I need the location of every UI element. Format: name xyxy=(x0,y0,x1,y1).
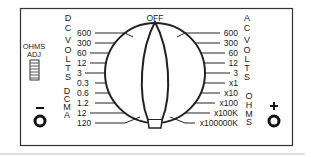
left-range-label: 120 xyxy=(77,118,91,128)
ac-volts-title: A C V O L T S xyxy=(243,13,250,82)
svg-text:A: A xyxy=(244,13,250,23)
svg-text:V: V xyxy=(65,35,71,45)
left-range-label: 300 xyxy=(77,38,91,48)
svg-text:S: S xyxy=(65,72,71,82)
right-range-label: x100K xyxy=(214,108,238,118)
right-range-label: 600 xyxy=(224,28,238,38)
left-range-label: 60 xyxy=(77,48,87,58)
multimeter-dial-diagram: OFF D C V O L T S D C M A A C V O L T S … xyxy=(0,0,311,157)
right-range-label: x10 xyxy=(224,88,238,98)
svg-text:C: C xyxy=(244,23,251,33)
left-range-label: 3 xyxy=(77,68,82,78)
ohms-adj-knob[interactable] xyxy=(30,60,39,80)
left-range-label: 0.6 xyxy=(77,88,89,98)
ohms-title: O H M S xyxy=(245,91,253,127)
right-range-label: 3 xyxy=(233,68,238,78)
pointer-tip xyxy=(148,120,162,128)
right-range-label: 60 xyxy=(229,48,239,58)
right-range-label: x1 xyxy=(229,78,238,88)
right-range-label: 12 xyxy=(229,58,239,68)
right-range-label: x100 xyxy=(220,98,239,108)
negative-terminal[interactable] xyxy=(35,116,45,126)
left-range-label: 12 xyxy=(77,58,87,68)
left-range-label: 600 xyxy=(77,28,91,38)
left-range-label: 0.3 xyxy=(77,78,89,88)
dc-volts-title: D C V O L T S xyxy=(64,13,71,82)
left-range-label: 12 xyxy=(77,108,87,118)
dc-ma-title: D C M A xyxy=(63,86,71,120)
left-range-label: 1.2 xyxy=(77,98,89,108)
svg-text:A: A xyxy=(64,110,70,120)
svg-text:C: C xyxy=(65,23,72,33)
positive-terminal[interactable] xyxy=(269,116,279,126)
off-label: OFF xyxy=(147,13,164,23)
right-range-label: x100000K xyxy=(200,118,239,128)
ohms-adj-label-2: ADJ xyxy=(27,50,41,59)
svg-text:S: S xyxy=(244,72,250,82)
svg-text:D: D xyxy=(65,13,72,23)
svg-text:V: V xyxy=(244,35,250,45)
right-range-label: 300 xyxy=(224,38,238,48)
svg-text:S: S xyxy=(246,117,252,127)
